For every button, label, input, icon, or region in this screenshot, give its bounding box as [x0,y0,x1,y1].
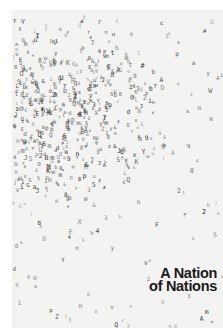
cover-title: A Nation of Nations [149,267,217,293]
title-line-2: of Nations [149,280,217,293]
book-cover: 0izyxtv5KkYnQ88J6JlKmuBj5e6xhmQ8QwCxmyR&… [12,10,223,328]
